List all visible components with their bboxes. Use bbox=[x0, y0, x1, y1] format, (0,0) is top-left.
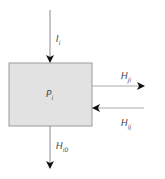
inflow-right-label: Hij bbox=[121, 119, 131, 130]
input-label: Ii bbox=[56, 35, 60, 46]
outflow-right-label: Hji bbox=[121, 72, 131, 83]
flow-diagram bbox=[0, 0, 165, 179]
outflow-bottom-label: Hi0 bbox=[56, 142, 68, 153]
process-label: Pi bbox=[46, 90, 53, 101]
